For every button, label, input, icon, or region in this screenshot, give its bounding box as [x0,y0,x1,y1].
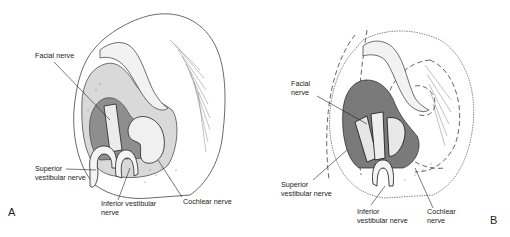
panel-letter-b: B [490,214,497,226]
panel-letter-a: A [8,206,15,218]
panel-a: Facial nerve Superior vestibular nerve I… [0,0,255,237]
label-facial-nerve-line2: nerve [291,89,309,98]
label-inferior-vestibular-nerve-line2: nerve [101,209,119,218]
label-superior-vestibular-nerve-line2: vestibular nerve [281,190,332,199]
panel-b: Facial nerve Superior vestibular nerve I… [255,0,510,237]
label-cochlear-nerve-line2: nerve [427,217,445,226]
label-facial-nerve: Facial nerve [35,52,74,61]
label-superior-vestibular-nerve-line2: vestibular nerve [35,174,86,183]
panel-b-illustration [255,0,510,237]
label-inferior-vestibular-nerve-line2: vestibular nerve [357,217,408,226]
label-cochlear-nerve: Cochlear nerve [183,198,232,207]
